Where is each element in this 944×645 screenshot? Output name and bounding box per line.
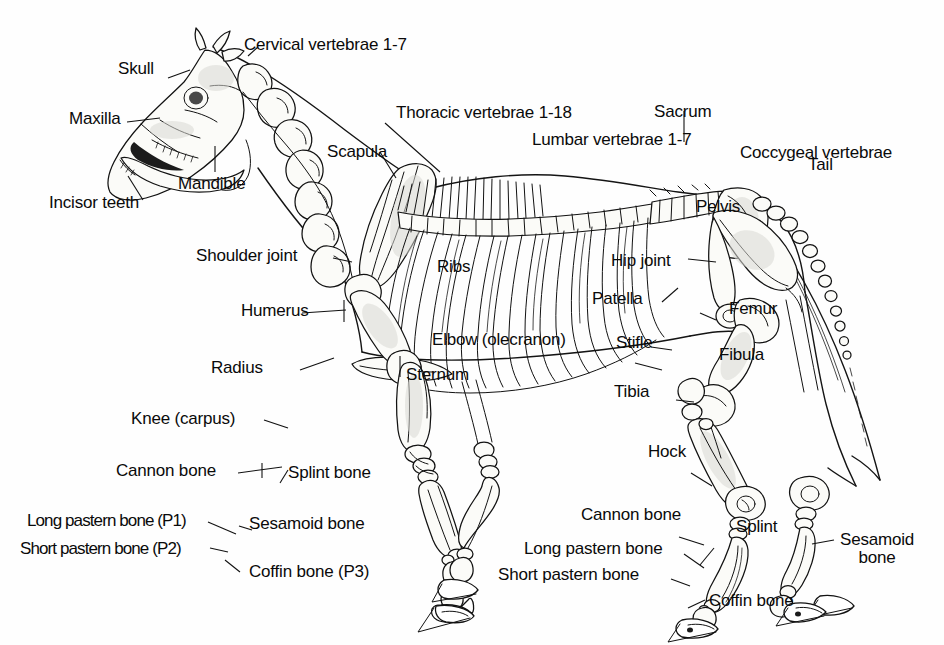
label-long-pastern-hind: Long pastern bone <box>524 540 662 558</box>
carpus-group <box>405 445 438 484</box>
label-ribs: Ribs <box>437 258 470 276</box>
label-tibia: Tibia <box>614 383 649 401</box>
label-sesamoid-bone-front: Sesamoid bone <box>249 515 365 533</box>
label-coffin-bone-hind: Coffin bone <box>709 592 793 610</box>
label-incisor-teeth: Incisor teeth <box>49 194 139 212</box>
label-hock: Hock <box>648 443 686 461</box>
label-sternum: Sternum <box>406 366 469 384</box>
label-cannon-bone-front: Cannon bone <box>116 462 216 480</box>
label-shoulder-joint: Shoulder joint <box>196 247 297 265</box>
label-sacrum: Sacrum <box>654 103 711 121</box>
label-splint-bone-front: Splint bone <box>288 464 371 482</box>
label-radius: Radius <box>211 359 263 377</box>
label-lumbar-vertebrae: Lumbar vertebrae 1-7 <box>532 131 691 149</box>
label-scapula: Scapula <box>327 143 387 161</box>
hind-cannon-group <box>668 537 748 642</box>
label-cannon-bone-hind: Cannon bone <box>581 506 681 524</box>
label-hip-joint: Hip joint <box>611 252 671 270</box>
hind-limb-far-group <box>770 296 854 626</box>
label-patella: Patella <box>592 290 643 308</box>
label-short-pastern-p2: Short pastern bone (P2) <box>20 540 181 558</box>
label-maxilla: Maxilla <box>69 110 121 128</box>
label-elbow-olecranon: Elbow (olecranon) <box>432 331 566 349</box>
label-fibula: Fibula <box>719 346 764 364</box>
label-femur: Femur <box>729 300 777 318</box>
label-tail: Tail <box>808 156 833 174</box>
label-cervical-vertebrae: Cervical vertebrae 1-7 <box>244 36 407 54</box>
label-short-pastern-hind: Short pastern bone <box>498 566 639 584</box>
label-long-pastern-p1: Long pastern bone (P1) <box>27 512 186 530</box>
label-thoracic-vertebrae: Thoracic vertebrae 1-18 <box>396 104 572 122</box>
label-sesamoid-bone-hind-line1: Sesamoid <box>834 531 920 549</box>
label-splint-hind: Splint <box>736 518 777 536</box>
label-skull: Skull <box>118 60 154 78</box>
label-sesamoid-bone-hind: Sesamoid bone <box>834 531 920 567</box>
label-mandible: Mandible <box>178 175 245 193</box>
horse-skeleton-diagram: Skull Cervical vertebrae 1-7 Maxilla Tho… <box>0 0 944 645</box>
label-sesamoid-bone-hind-line2: bone <box>834 549 920 567</box>
label-knee-carpus: Knee (carpus) <box>131 410 235 428</box>
label-stifle: Stifle <box>616 334 653 352</box>
label-humerus: Humerus <box>241 302 309 320</box>
label-coffin-bone-p3: Coffin bone (P3) <box>249 563 369 581</box>
label-pelvis: Pelvis <box>696 198 740 216</box>
far-carpus-group <box>474 442 499 479</box>
